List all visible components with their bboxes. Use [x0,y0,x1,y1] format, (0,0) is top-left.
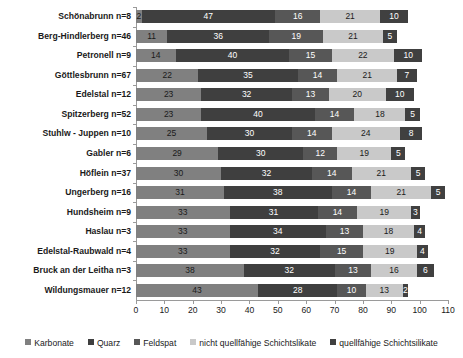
y-axis-tick [133,46,136,47]
bar-segment: 36 [167,30,269,43]
y-axis-tick [133,144,136,145]
bar-row: 1440152210 [136,49,422,62]
x-axis-tick-label: 80 [348,305,378,315]
bar-segment: 31 [136,186,224,199]
x-axis-tick-label: 70 [320,305,350,315]
bar-segment: 18 [354,108,405,121]
bar-row: 313814215 [136,186,445,199]
bar-row: 432810132 [136,284,408,297]
bar-segment: 18 [363,225,414,238]
y-axis-tick [133,105,136,106]
plot-area: 2471621101136192151440152210223514217233… [136,7,448,300]
x-axis-tick-label: 90 [376,305,406,315]
bar-segment: 38 [224,186,332,199]
legend-label: Quarz [97,337,120,349]
legend-item[interactable]: Karbonate [25,336,74,349]
bar-row: 383213166 [136,264,434,277]
x-axis-tick [420,301,421,304]
bar-segment: 3 [411,206,420,219]
legend-swatch-icon [88,339,94,345]
bar-segment: 30 [218,147,303,160]
x-axis-tick-label: 50 [263,305,293,315]
y-axis-tick [133,85,136,86]
x-axis-line [136,300,449,301]
bar-segment: 29 [136,147,218,160]
x-axis-tick [306,301,307,304]
bar-segment: 14 [318,206,358,219]
x-axis-tick [249,301,250,304]
legend-item[interactable]: Quarz [88,336,120,349]
bar-row: 247162110 [136,10,408,23]
bar-row: 293012195 [136,147,405,160]
legend-item[interactable]: quellfähige Schichtsilikate [330,336,437,349]
x-axis-tick-label: 30 [206,305,236,315]
bar-segment: 21 [323,30,383,43]
x-axis-tick-label: 100 [405,305,435,315]
bar-segment: 33 [136,206,230,219]
bar-segment: 10 [386,88,414,101]
x-axis-tick [335,301,336,304]
bar-row: 223514217 [136,69,417,82]
bar-segment: 8 [400,127,423,140]
category-axis-labels: Schönabrunn n=8Berg-Hindlerberg n=46Petr… [0,7,131,300]
bar-segment: 24 [332,127,400,140]
bar-segment: 21 [352,167,412,180]
x-axis-tick-label: 40 [234,305,264,315]
bar-segment: 14 [315,108,355,121]
category-label: Schönabrunn n=8 [58,10,131,23]
x-axis-tick-label: 0 [121,305,151,315]
chart-legend: KarbonateQuarzFeldspatnicht quellfähige … [0,336,463,349]
legend-swatch-icon [330,339,336,345]
bar-segment: 15 [320,245,363,258]
category-label: Berg-Hindlerberg n=46 [38,30,131,43]
x-axis-tick [391,301,392,304]
bar-segment: 7 [397,69,417,82]
bar-segment: 32 [221,167,312,180]
category-label: Göttlesbrunn n=67 [55,69,131,82]
bar-row: 303214215 [136,167,425,180]
bar-segment: 21 [320,10,380,23]
stacked-bar-chart: Schönabrunn n=8Berg-Hindlerberg n=46Petr… [0,0,463,358]
bar-segment: 43 [136,284,258,297]
legend-label: quellfähige Schichtsilikate [339,337,437,349]
bar-segment: 33 [136,245,230,258]
bar-row: 113619215 [136,30,397,43]
bar-row: 333114193 [136,206,420,219]
x-axis-tick [278,301,279,304]
bar-segment: 10 [394,49,422,62]
bar-segment: 19 [363,245,417,258]
bar-segment: 38 [136,264,244,277]
bar-segment: 25 [136,127,207,140]
bar-segment: 2 [403,284,409,297]
category-label: Wildungsmauer n=12 [44,284,131,297]
bar-segment: 30 [136,167,221,180]
x-axis-tick-label: 10 [149,305,179,315]
category-label: Edelstal n=12 [76,88,131,101]
legend-item[interactable]: nicht quellfähige Schichtslikate [190,336,316,349]
bar-segment: 13 [292,88,329,101]
bar-segment: 23 [136,108,201,121]
bar-segment: 40 [176,49,289,62]
bar-segment: 10 [380,10,408,23]
bar-segment: 28 [258,284,337,297]
bar-segment: 4 [417,245,428,258]
bar-segment: 12 [303,147,337,160]
bar-segment: 32 [201,88,292,101]
legend-item[interactable]: Feldspat [134,336,176,349]
bar-segment: 14 [298,69,338,82]
x-axis-tick-label: 60 [291,305,321,315]
bar-segment: 21 [371,186,431,199]
bar-segment: 5 [405,108,419,121]
bar-segment: 13 [335,264,372,277]
bar-segment: 14 [332,186,372,199]
bar-segment: 20 [329,88,386,101]
y-axis-tick [133,202,136,203]
x-axis-tick-label: 110 [433,305,463,315]
x-axis-tick [221,301,222,304]
category-label: Gabler n=6 [86,147,131,160]
y-axis-tick [133,280,136,281]
y-axis-tick [133,222,136,223]
bar-segment: 13 [326,225,363,238]
y-axis-tick [133,66,136,67]
y-axis-tick [133,163,136,164]
